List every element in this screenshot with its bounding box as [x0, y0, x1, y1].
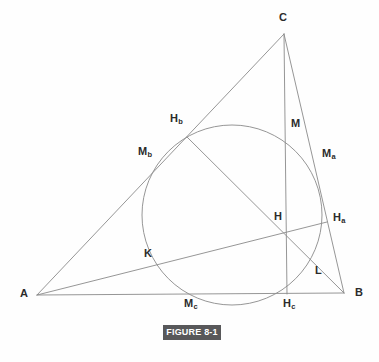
- point-label-ma: Ma: [322, 148, 336, 159]
- point-label-subscript: b: [148, 150, 153, 159]
- point-label-ha: Ha: [333, 212, 345, 223]
- side-BC: [284, 34, 344, 293]
- point-label-b: B: [355, 287, 363, 298]
- point-label-mc: Mc: [184, 298, 198, 309]
- point-label-h: H: [274, 211, 282, 222]
- point-label-l: L: [315, 265, 322, 276]
- figure-caption-bar: FIGURE 8-1: [163, 325, 221, 340]
- point-label-hb: Hb: [170, 113, 183, 124]
- point-label-m: M: [291, 118, 300, 129]
- point-label-a: A: [20, 288, 28, 299]
- figure-container: ABCHaHbHcMaMbMcMHKL FIGURE 8-1: [0, 0, 379, 362]
- altitude-from-A: [37, 222, 327, 295]
- point-label-c: C: [279, 12, 287, 23]
- point-label-subscript: c: [291, 302, 295, 311]
- nine-point-circle: [142, 125, 322, 305]
- point-label-mb: Mb: [138, 146, 152, 157]
- point-label-subscript: a: [332, 152, 336, 161]
- point-label-subscript: b: [178, 117, 183, 126]
- point-label-k: K: [144, 248, 152, 259]
- point-label-hc: Hc: [283, 298, 295, 309]
- altitude-from-C: [284, 34, 287, 294]
- point-label-subscript: a: [341, 216, 345, 225]
- segments-group: [37, 34, 344, 295]
- point-label-subscript: c: [194, 302, 198, 311]
- side-CA: [37, 34, 284, 295]
- figure-caption-text: FIGURE 8-1: [166, 328, 218, 337]
